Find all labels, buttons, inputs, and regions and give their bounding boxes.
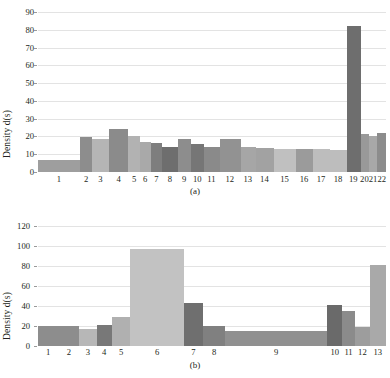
x-tick-7-b: 7 — [184, 348, 204, 357]
bar-7-b — [184, 303, 204, 346]
bar-1-a — [38, 160, 80, 172]
x-tick-4-a: 4 — [109, 175, 129, 184]
x-tick-3-a: 3 — [92, 175, 109, 184]
x-tick-20-a: 20 — [360, 175, 369, 184]
y-tick-120-b: 120 — [17, 222, 30, 231]
y-tickmark-120-b — [34, 226, 37, 227]
x-tick-9-a: 9 — [177, 175, 191, 184]
x-tick-22-a: 22 — [377, 175, 386, 184]
bar-18-a — [330, 150, 347, 172]
bar-3-a — [92, 139, 109, 172]
x-tick-10-a: 10 — [191, 175, 203, 184]
bar-17-a — [313, 149, 330, 172]
plot-area-b — [38, 226, 386, 346]
x-axis-tick-labels-b: 12345678910111213 — [38, 348, 386, 357]
y-tick-100-b: 100 — [17, 242, 30, 251]
x-tick-17-a: 17 — [312, 175, 329, 184]
y-tickmark-60-b — [34, 286, 37, 287]
x-tick-12-b: 12 — [355, 348, 369, 357]
bar-8-b — [203, 326, 225, 346]
bar-7-a — [151, 143, 163, 172]
x-tick-8-b: 8 — [203, 348, 225, 357]
bar-2-a — [80, 137, 92, 172]
x-tick-2-b: 2 — [59, 348, 80, 357]
bar-20-a — [361, 134, 370, 172]
bar-11-a — [204, 147, 220, 172]
x-axis-tick-labels-a: 12345678910111213141516171819202122 — [38, 175, 386, 184]
y-tick-30-a: 30 — [25, 114, 34, 123]
x-tick-16-a: 16 — [296, 175, 313, 184]
y-tick-80-a: 80 — [25, 25, 34, 34]
x-tick-1-b: 1 — [38, 348, 59, 357]
bar-series-b — [38, 226, 386, 346]
y-tick-50-a: 50 — [25, 79, 34, 88]
x-tick-15-a: 15 — [273, 175, 295, 184]
y-axis-tick-labels-b: 020406080100120 — [4, 196, 30, 378]
x-tick-11-b: 11 — [342, 348, 355, 357]
y-tick-70-a: 70 — [25, 43, 34, 52]
panel-b: Density d(s) 020406080100120 12345678910… — [0, 196, 390, 378]
x-tick-3-b: 3 — [79, 348, 96, 357]
y-tick-20-a: 20 — [25, 132, 34, 141]
bar-series-a — [38, 12, 386, 172]
panel-caption-b: (b) — [0, 360, 390, 370]
bar-19-a — [347, 26, 361, 172]
bar-1-b — [38, 326, 59, 346]
x-tick-6-b: 6 — [130, 348, 183, 357]
bar-5-b — [112, 317, 130, 346]
x-tick-21-a: 21 — [369, 175, 378, 184]
x-tick-12-a: 12 — [219, 175, 240, 184]
y-tickmark-0-a — [34, 172, 37, 173]
bar-9-a — [178, 139, 192, 172]
bar-4-a — [109, 129, 129, 172]
y-tickmark-30-a — [34, 119, 37, 120]
bar-10-a — [191, 144, 203, 172]
x-tick-7-a: 7 — [151, 175, 163, 184]
y-tickmark-80-a — [34, 30, 37, 31]
bar-22-a — [377, 133, 386, 172]
y-tick-60-b: 60 — [21, 282, 30, 291]
y-tickmark-90-a — [34, 12, 37, 13]
y-tick-80-b: 80 — [21, 262, 30, 271]
x-tick-5-a: 5 — [128, 175, 140, 184]
bar-13-b — [370, 265, 386, 346]
x-tick-11-a: 11 — [203, 175, 219, 184]
bar-11-b — [342, 311, 355, 346]
y-tickmark-40-a — [34, 101, 37, 102]
y-tickmark-0-b — [34, 346, 37, 347]
x-tick-6-a: 6 — [140, 175, 151, 184]
y-tick-40-b: 40 — [21, 302, 30, 311]
bar-14-a — [256, 148, 274, 172]
y-axis-tick-labels-a: 0102030405060708090 — [8, 0, 34, 196]
x-tick-4-b: 4 — [97, 348, 112, 357]
x-tick-19-a: 19 — [346, 175, 360, 184]
y-tickmark-50-a — [34, 83, 37, 84]
bar-10-b — [327, 305, 341, 346]
bar-5-a — [128, 136, 140, 172]
x-tick-9-b: 9 — [225, 348, 328, 357]
panel-caption-a: (a) — [0, 186, 390, 196]
bar-16-a — [296, 149, 313, 172]
y-tick-60-a: 60 — [25, 61, 34, 70]
bar-15-a — [274, 149, 296, 172]
x-tick-5-b: 5 — [112, 348, 130, 357]
x-tick-14-a: 14 — [255, 175, 273, 184]
bar-9-b — [225, 331, 328, 346]
bar-6-b — [130, 249, 183, 346]
y-tickmark-70-a — [34, 48, 37, 49]
y-tickmark-60-a — [34, 65, 37, 66]
bar-6-a — [140, 142, 151, 172]
bar-13-a — [241, 147, 256, 172]
figure-container: Density d(s) 0102030405060708090 1234567… — [0, 0, 390, 378]
bar-2-b — [59, 326, 80, 346]
x-tick-2-a: 2 — [80, 175, 92, 184]
bar-12-a — [220, 139, 241, 172]
y-tickmark-100-b — [34, 246, 37, 247]
bar-21-a — [369, 136, 377, 172]
y-tickmark-20-b — [34, 326, 37, 327]
bar-8-a — [162, 147, 177, 172]
x-tick-13-b: 13 — [370, 348, 386, 357]
plot-area-a — [38, 12, 386, 172]
y-tick-10-a: 10 — [25, 150, 34, 159]
x-tick-10-b: 10 — [327, 348, 341, 357]
